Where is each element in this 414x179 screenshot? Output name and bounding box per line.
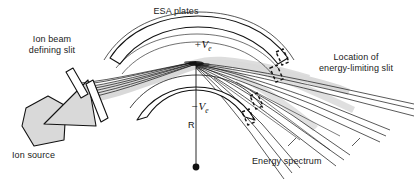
ion-source-label: Ion source bbox=[12, 150, 55, 161]
figure-canvas: ESA plates +Ve −Ve R Ion beam defining s… bbox=[0, 0, 414, 179]
energy-limiting-slit-label-line2: energy-limiting slit bbox=[298, 63, 414, 74]
ion-beam-defining-slit-label-line2: defining slit bbox=[10, 45, 94, 56]
lower-plate-voltage-subscript: e bbox=[205, 106, 208, 115]
esa-plates-label: ESA plates bbox=[128, 6, 224, 17]
upper-plate-voltage-label: +Ve bbox=[183, 26, 212, 65]
ion-beam-defining-slit-label-line1: Ion beam bbox=[10, 34, 94, 45]
centre-of-curvature-dot bbox=[193, 164, 200, 171]
energy-limiting-slit-label-line1: Location of bbox=[300, 52, 412, 63]
energy-spectrum-label: Energy spectrum bbox=[252, 156, 322, 167]
upper-plate-voltage-subscript: e bbox=[208, 44, 211, 53]
radius-label: R bbox=[188, 120, 195, 130]
